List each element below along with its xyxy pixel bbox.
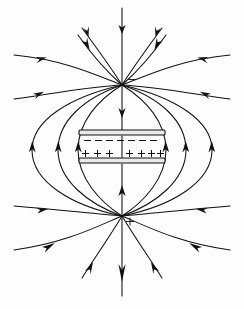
field-line-left-flat-bottom-upper	[14, 206, 122, 216]
node-markers	[126, 80, 136, 226]
field-lines-bottom	[14, 206, 230, 296]
field-lines-interior	[118, 85, 125, 216]
field-line-upper-left-steep	[82, 28, 122, 85]
arrowhead-lower-left-steep	[85, 262, 93, 274]
figure-root: Electric field lines of a charged parall…	[0, 0, 244, 309]
field-line-left-flat-bottom	[14, 216, 122, 250]
field-line-upper-right-steep	[122, 28, 162, 85]
arrowhead-upper-left-medium	[82, 38, 90, 51]
arrowhead-upper-right-medium	[154, 38, 162, 51]
positive-plate	[79, 158, 165, 163]
negative-plate	[79, 130, 165, 135]
field-line-right-flat-bottom	[122, 216, 230, 250]
arrowhead-lower-right-steep	[151, 262, 159, 274]
electric-field-diagram	[0, 0, 244, 309]
field-line-right-flat-bottom-upper	[122, 206, 230, 216]
positive-plate-charges	[82, 150, 164, 157]
